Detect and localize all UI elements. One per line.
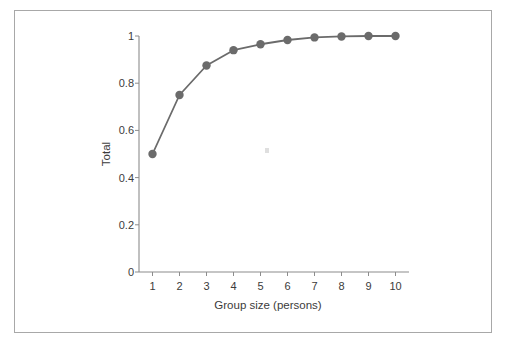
data-point-marker xyxy=(256,40,264,48)
series-line-total xyxy=(153,36,396,154)
data-point-marker xyxy=(202,61,210,69)
y-tick-label: 0.8 xyxy=(112,78,134,89)
data-point-marker xyxy=(175,91,183,99)
data-point-marker xyxy=(310,33,318,41)
x-tick-label: 1 xyxy=(149,281,155,292)
chart-axes xyxy=(139,36,409,272)
data-point-marker xyxy=(229,46,237,54)
x-tick-label: 9 xyxy=(365,281,371,292)
x-tick-label: 5 xyxy=(257,281,263,292)
data-point-marker xyxy=(148,150,156,158)
chart-tick-marks xyxy=(135,36,396,276)
data-point-marker xyxy=(364,32,372,40)
line-chart-canvas xyxy=(0,0,507,344)
y-tick-label: 0.4 xyxy=(112,172,134,183)
data-point-marker xyxy=(283,36,291,44)
y-tick-label: 0.2 xyxy=(112,219,134,230)
y-tick-label: 0 xyxy=(112,267,134,278)
x-tick-label: 3 xyxy=(203,281,209,292)
x-tick-label: 4 xyxy=(230,281,236,292)
x-tick-label: 6 xyxy=(284,281,290,292)
x-tick-label: 7 xyxy=(311,281,317,292)
series-markers-total xyxy=(148,32,399,158)
y-tick-label: 1 xyxy=(112,31,134,42)
x-tick-label: 10 xyxy=(389,281,401,292)
y-axis-title: Total xyxy=(101,142,113,166)
scan-artifact-speck xyxy=(265,148,269,153)
figure-root: 00.20.40.60.81 12345678910 Group size (p… xyxy=(0,0,507,344)
data-point-marker xyxy=(391,32,399,40)
x-tick-label: 8 xyxy=(338,281,344,292)
x-tick-label: 2 xyxy=(176,281,182,292)
x-axis-title: Group size (persons) xyxy=(214,300,321,312)
y-tick-label: 0.6 xyxy=(112,125,134,136)
data-point-marker xyxy=(337,32,345,40)
